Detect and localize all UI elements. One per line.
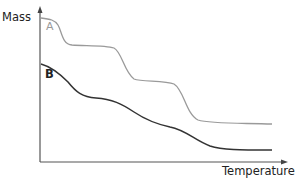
y-axis-arrow-icon bbox=[38, 6, 43, 13]
curve-a bbox=[41, 18, 272, 124]
y-axis-label: Mass bbox=[2, 10, 31, 24]
curve-b-label: B bbox=[45, 67, 54, 81]
x-axis-label: Temperature bbox=[222, 164, 295, 178]
curve-a-label: A bbox=[46, 20, 54, 33]
curve-b bbox=[41, 64, 272, 150]
axes bbox=[38, 6, 289, 165]
